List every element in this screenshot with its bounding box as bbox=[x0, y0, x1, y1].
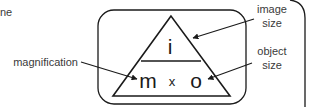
cropped-text-fragment: ne bbox=[0, 6, 12, 18]
symbol-image-size: i bbox=[168, 35, 173, 58]
magnification-triangle-diagram: ne i m x o magnification image size obje… bbox=[0, 0, 311, 107]
symbol-multiply: x bbox=[169, 74, 176, 89]
symbol-object-size: o bbox=[190, 69, 202, 92]
symbol-magnification: m bbox=[139, 69, 157, 92]
label-image-size-line2: size bbox=[262, 17, 282, 29]
label-object-size-line2: size bbox=[262, 59, 282, 71]
adjacent-frame-edge bbox=[290, 0, 305, 107]
label-image-size-line1: image bbox=[257, 3, 287, 15]
arrow-magnification bbox=[81, 62, 137, 79]
label-magnification: magnification bbox=[13, 56, 78, 68]
arrow-image-size bbox=[193, 19, 254, 38]
label-object-size-line1: object bbox=[257, 45, 286, 57]
